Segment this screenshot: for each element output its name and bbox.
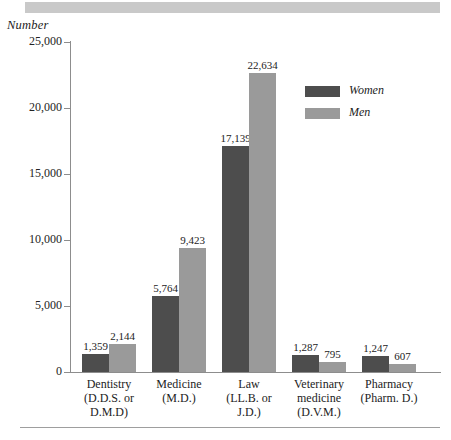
top-decorative-band [25, 2, 440, 13]
category-label: Veterinarymedicine(D.V.M.) [279, 377, 359, 419]
bar-value-label-men: 2,144 [100, 330, 145, 342]
x-axis-line [70, 372, 441, 373]
category-label-line: (LL.B. or [209, 391, 289, 405]
category-label-line: Medicine [139, 377, 219, 391]
category-label-line: J.D.) [209, 405, 289, 419]
category-label-line: (D.D.S. or [69, 391, 149, 405]
bar-men [389, 364, 416, 372]
bar-women [222, 146, 249, 372]
y-axis-tick-label: 10,000 [29, 232, 62, 247]
legend-label: Women [349, 83, 384, 98]
y-axis-title: Number [7, 18, 48, 33]
category-label: Pharmacy(Pharm. D.) [349, 377, 429, 405]
bar-men [179, 248, 206, 372]
y-axis-tick-mark [64, 372, 70, 373]
y-axis-tick-label: 25,000 [29, 34, 62, 49]
category-label-line: Law [209, 377, 289, 391]
y-axis-tick-label: 15,000 [29, 166, 62, 181]
bottom-divider-rule [20, 427, 440, 428]
category-label-line: Veterinary [279, 377, 359, 391]
y-axis-tick-label: 5,000 [35, 298, 62, 313]
bar-women [82, 354, 109, 372]
bar-value-label-men: 607 [380, 350, 425, 362]
category-label-line: Dentistry [69, 377, 149, 391]
bar-value-label-men: 795 [310, 348, 355, 360]
legend-swatch-icon [305, 108, 340, 119]
category-label: Medicine(M.D.) [139, 377, 219, 405]
category-label: Dentistry(D.D.S. orD.M.D) [69, 377, 149, 419]
y-axis-tick-label: 0 [56, 364, 62, 379]
category-label-line: D.M.D) [69, 405, 149, 419]
category-label-line: (Pharm. D.) [349, 391, 429, 405]
bar-men [109, 344, 136, 372]
bar-men [249, 73, 276, 372]
legend-label: Men [349, 105, 370, 120]
bar-men [319, 362, 346, 372]
y-axis-tick-label: 20,000 [29, 100, 62, 115]
category-label: Law(LL.B. orJ.D.) [209, 377, 289, 419]
category-label-line: Pharmacy [349, 377, 429, 391]
category-label-line: medicine [279, 391, 359, 405]
chart-legend: WomenMen [305, 84, 425, 128]
legend-swatch-icon [305, 86, 340, 97]
legend-item: Women [305, 84, 425, 101]
legend-item: Men [305, 106, 425, 123]
bar-women [152, 296, 179, 372]
bar-chart-figure: Number 05,00010,00015,00020,00025,000 Wo… [0, 0, 451, 440]
bar-value-label-men: 22,634 [240, 59, 285, 71]
category-label-line: (M.D.) [139, 391, 219, 405]
bar-value-label-men: 9,423 [170, 234, 215, 246]
category-label-line: (D.V.M.) [279, 405, 359, 419]
